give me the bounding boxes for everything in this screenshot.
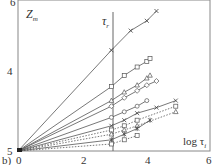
data-marker <box>154 9 158 13</box>
data-marker <box>145 99 149 103</box>
data-marker <box>145 19 149 23</box>
series-line <box>18 75 150 151</box>
data-marker <box>135 88 140 93</box>
data-marker <box>174 99 178 103</box>
data-marker <box>135 104 139 108</box>
data-marker <box>122 73 126 77</box>
data-marker <box>148 73 153 77</box>
data-marker <box>135 118 139 122</box>
tau-r-annotation: τr <box>102 14 109 30</box>
series-line <box>18 59 150 151</box>
data-marker <box>135 134 139 138</box>
data-marker <box>129 29 133 33</box>
data-marker <box>122 90 127 94</box>
x-tick-6: 6 <box>206 154 212 165</box>
y-axis-title: Zm <box>26 7 38 23</box>
data-marker <box>122 110 126 114</box>
data-marker <box>173 109 178 113</box>
data-marker <box>122 118 126 122</box>
x-tick-2: 2 <box>81 154 87 165</box>
data-marker <box>109 115 113 119</box>
data-marker <box>154 79 159 84</box>
data-marker <box>135 65 139 69</box>
data-marker <box>109 142 113 146</box>
series-layer <box>17 9 178 152</box>
data-marker <box>109 85 113 89</box>
data-marker <box>144 83 149 88</box>
data-marker <box>122 132 126 137</box>
y-tick-6: 6 <box>10 0 16 8</box>
data-marker <box>135 126 139 131</box>
y-tick-5: 5 <box>7 145 13 157</box>
plot-frame <box>18 0 210 151</box>
origin-marker <box>17 148 22 152</box>
data-marker <box>148 118 152 123</box>
y-tick-4: 4 <box>7 65 13 77</box>
chart: b) 0 2 4 6 5 4 6 Zm τr log τi <box>0 0 215 165</box>
x-axis-title: log τi <box>183 135 206 150</box>
data-marker <box>122 95 127 100</box>
x-tick-4: 4 <box>145 154 151 165</box>
data-marker <box>135 83 140 87</box>
data-marker <box>148 57 152 61</box>
x-tick-0: 0 <box>16 154 22 165</box>
data-marker <box>174 104 178 108</box>
data-marker <box>122 138 126 142</box>
